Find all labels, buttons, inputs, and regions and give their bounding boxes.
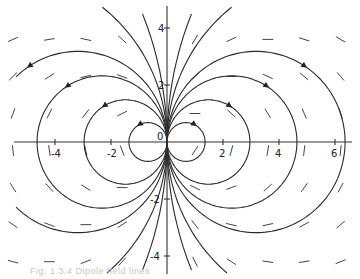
x-tick-label: 6 [331,148,337,159]
field-dash [263,74,272,78]
field-dash [81,260,90,264]
field-dash [192,221,198,229]
field-dash [299,38,309,41]
field-dash [118,36,125,43]
field-dash [81,38,91,40]
field-dash [267,146,269,156]
field-dash [192,35,197,44]
field-line [167,7,232,273]
field-dash [45,223,54,227]
y-tick-label: 2 [158,80,164,91]
field-dash [44,39,54,41]
field-dash [263,224,273,226]
field-dash [191,185,200,189]
field-dash [10,183,15,191]
field-dash [336,260,345,264]
field-dash [83,110,89,118]
figure-caption: Fig. 1.3.4 Dipole field lines [30,266,150,276]
arrow-icon [300,62,307,68]
field-dash [82,185,90,190]
field-dash [227,224,237,226]
field-dash [299,261,309,263]
field-dash [227,37,236,41]
field-dash [228,110,235,117]
y-tick-label: 4 [158,23,164,34]
field-dash [300,222,309,227]
field-dash [8,37,17,41]
field-dash [340,146,341,156]
field-dash [301,184,307,192]
dipole-field-plot: -4-224642-2-40 [0,0,360,279]
x-tick-label: -4 [51,148,61,159]
x-tick-label: -2 [107,148,117,159]
field-dash [11,109,15,118]
arrow-icon [65,82,72,88]
field-dash [337,221,345,227]
field-dash [8,260,18,263]
field-dash [230,146,233,156]
field-dash [47,109,52,118]
field-dash [193,257,198,266]
field-dash [9,73,16,80]
field-dash [46,184,53,191]
field-dash [264,184,271,191]
field-dash [300,73,308,79]
field-dash [337,73,344,81]
field-dash [227,186,236,189]
field-dash [45,74,53,79]
field-dash [302,109,306,118]
field-dash [192,146,198,154]
field-lines [16,7,345,273]
field-dash [49,146,50,156]
field-dash [338,183,343,192]
field-dash [265,109,270,118]
field-dash [119,258,126,265]
x-tick-label: 2 [219,148,225,159]
arrow-icon [27,62,34,68]
origin-label: 0 [157,131,163,142]
field-dash [304,146,305,156]
y-tick-label: -4 [150,251,160,262]
x-tick-label: 4 [275,148,281,159]
field-dash [12,146,13,156]
arrow-icon [263,82,270,88]
field-dash [336,37,345,42]
field-dash [118,111,127,115]
field-dash [263,261,273,263]
y-tick-label: -2 [150,194,160,205]
field-dash [120,146,124,155]
field-dash [227,259,235,264]
field-dash [9,222,17,228]
